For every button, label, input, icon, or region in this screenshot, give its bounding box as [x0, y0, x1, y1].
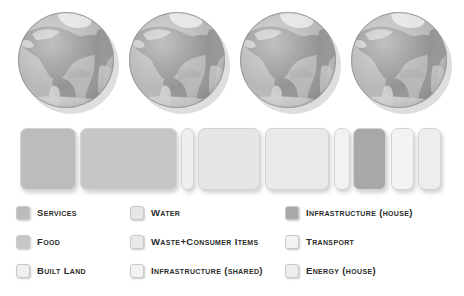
bar-segment [334, 128, 350, 190]
legend-swatch-icon [16, 235, 30, 249]
legend-swatch-icon [16, 206, 30, 220]
legend-swatch-icon [285, 235, 299, 249]
legend-item: Energy (house) [285, 256, 460, 285]
legend-swatch-icon [130, 235, 144, 249]
legend-item-label: Infrastructure (house) [306, 208, 413, 218]
legend-item-label: Energy (house) [306, 266, 376, 276]
legend-column-1: ServicesFoodBuilt Land [16, 198, 126, 285]
bar-segment [418, 128, 441, 190]
legend-item: Built Land [16, 256, 126, 285]
legend-swatch-icon [130, 264, 144, 278]
earth-globe-icon [347, 8, 455, 116]
legend-item: Waste+Consumer Items [130, 227, 280, 256]
bar-segment [198, 128, 260, 190]
legend-item-label: Transport [306, 237, 354, 247]
legend-item: Services [16, 198, 126, 227]
legend-item-label: Services [37, 208, 77, 218]
legend-item-label: Food [37, 237, 60, 247]
legend-item: Infrastructure (shared) [130, 256, 280, 285]
bar-segment [353, 128, 386, 190]
bar-segment [391, 128, 414, 190]
globes-row [0, 0, 464, 122]
legend-item: Transport [285, 227, 460, 256]
bar-segment [20, 128, 76, 190]
legend-item: Infrastructure (house) [285, 198, 460, 227]
legend-item-label: Built Land [37, 266, 86, 276]
earth-globe-icon [14, 8, 122, 116]
legend: ServicesFoodBuilt Land WaterWaste+Consum… [0, 198, 464, 296]
bar-segment [181, 128, 194, 190]
earth-globe-icon [236, 8, 344, 116]
legend-item-label: Water [151, 208, 180, 218]
stacked-bar-chart [0, 128, 464, 192]
legend-swatch-icon [130, 206, 144, 220]
legend-column-3: Infrastructure (house)TransportEnergy (h… [285, 198, 460, 285]
legend-swatch-icon [285, 264, 299, 278]
bar-segment [265, 128, 329, 190]
legend-item: Food [16, 227, 126, 256]
legend-item-label: Waste+Consumer Items [151, 237, 259, 247]
legend-swatch-icon [285, 206, 299, 220]
earth-globe-icon [125, 8, 233, 116]
legend-swatch-icon [16, 264, 30, 278]
legend-column-2: WaterWaste+Consumer ItemsInfrastructure … [130, 198, 280, 285]
legend-item-label: Infrastructure (shared) [151, 266, 263, 276]
legend-item: Water [130, 198, 280, 227]
bar-segment [80, 128, 177, 190]
